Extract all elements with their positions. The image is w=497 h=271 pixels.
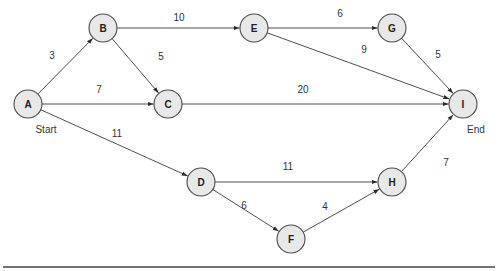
edge-weight-a-d: 11 [112,128,123,139]
edge-weight-a-b: 3 [49,50,55,61]
node-label: A [24,99,31,110]
node-a: A [14,90,42,118]
node-label: G [388,23,396,34]
node-label: H [388,177,395,188]
node-e: E [240,14,268,42]
node-label: B [99,23,106,34]
edge-weight-c-i: 20 [297,84,309,95]
edge-b-c [112,39,158,93]
node-g: G [378,14,406,42]
node-b: B [89,14,117,42]
node-h: H [378,168,406,196]
edge-f-h [303,189,379,232]
node-i: I [449,90,477,118]
end-label: End [467,124,485,135]
node-label: C [164,99,171,110]
node-c: C [154,90,182,118]
node-label: F [288,234,294,245]
node-d: D [187,168,215,196]
node-label: D [197,177,204,188]
edge-weight-b-c: 5 [158,51,164,62]
edge-weight-d-h: 11 [283,161,294,172]
edge-weight-d-f: 6 [241,200,247,211]
edge-e-i [267,33,449,99]
start-label: Start [35,124,56,135]
node-f: F [277,225,305,253]
node-label: I [462,99,465,110]
edge-weight-e-i: 9 [361,44,367,55]
node-label: E [251,23,258,34]
edge-weight-a-c: 7 [96,84,102,95]
nodes-layer: ABCDEFGHI [14,14,477,253]
edge-weight-g-i: 5 [435,49,441,60]
network-diagram: 37111052069511647 ABCDEFGHI Start End [0,0,497,271]
edge-weight-e-g: 6 [337,8,343,19]
edge-weight-h-i: 7 [443,157,449,168]
edge-a-b [38,38,93,94]
edge-weight-f-h: 4 [322,201,328,212]
edge-g-i [402,38,454,93]
edge-weight-b-e: 10 [173,12,185,23]
edge-a-d [41,110,188,176]
